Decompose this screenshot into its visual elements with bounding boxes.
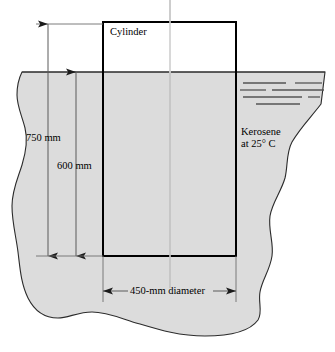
diameter-label: 450-mm diameter [130,285,205,297]
cylinder-label: Cylinder [110,26,147,38]
fluid-condition-text: at 25° C [241,138,281,150]
total-depth-label: 750 mm [26,132,61,144]
fluid-label: Kerosene at 25° C [241,126,281,151]
cylinder-in-kerosene-diagram [0,0,335,352]
submerged-depth-label: 600 mm [57,160,92,172]
fluid-name-text: Kerosene [241,126,281,137]
